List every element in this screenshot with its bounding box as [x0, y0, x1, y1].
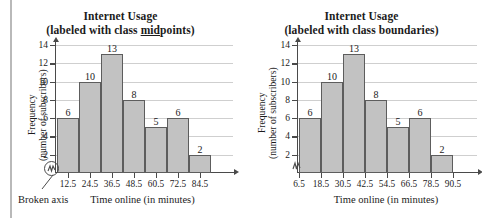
chart-title-block-right: Internet Usage (labeled with class bound…: [241, 10, 482, 37]
histogram-bar: 5: [145, 127, 167, 173]
x-axis-tick-label: 36.5: [104, 179, 120, 189]
y-axis-title-right: Frequency (number of subscribers): [256, 52, 278, 174]
y-axis-tick: [292, 45, 298, 46]
x-axis-tick: [453, 173, 454, 178]
y-axis-tick: [50, 136, 56, 137]
histogram-bar: 6: [167, 118, 189, 173]
y-axis-tick: [50, 118, 56, 119]
y-axis-tick: [292, 82, 298, 83]
x-axis-tick: [431, 173, 432, 178]
y-axis-tick: [292, 118, 298, 119]
histogram-bar: 6: [57, 118, 79, 173]
gridline: [55, 63, 233, 64]
y-axis-tick: [50, 155, 56, 156]
x-axis-tick: [68, 173, 69, 178]
histogram-bar: 10: [79, 82, 101, 173]
y-axis-tick: [292, 100, 298, 101]
y-axis-tick: [292, 136, 298, 137]
bar-value-label: 6: [66, 107, 71, 118]
y-axis-tick-label: 2: [285, 150, 290, 160]
x-axis-tick-label: 66.5: [401, 179, 417, 189]
histogram-bar: 2: [431, 155, 453, 173]
histogram-bar: 13: [101, 54, 123, 173]
bar-value-label: 6: [176, 107, 181, 118]
plot-area-right: 24681012146101385626.518.530.542.554.566…: [297, 45, 465, 173]
x-axis-tick: [156, 173, 157, 178]
bar-value-label: 13: [107, 43, 117, 54]
histogram-bar: 8: [365, 100, 387, 173]
x-axis-tick-label: 12.5: [60, 179, 76, 189]
y-axis-tick-label: 14: [39, 40, 49, 50]
axis-break-leader-line: [40, 174, 54, 190]
x-axis-tick: [409, 173, 410, 178]
y-axis-tick-label: 4: [43, 131, 48, 141]
chart-subtitle-post: boundaries): [379, 24, 439, 36]
y-axis-title-line2: (number of subscribers): [267, 67, 278, 159]
x-axis-tick-label: 54.5: [379, 179, 395, 189]
histogram-bar: 6: [409, 118, 431, 173]
y-axis-tick: [292, 155, 298, 156]
gridline: [297, 63, 477, 64]
y-axis-tick: [50, 63, 56, 64]
histogram-bar: 10: [321, 82, 343, 173]
bar-value-label: 5: [154, 116, 159, 127]
x-axis-tick-label: 60.5: [148, 179, 164, 189]
histogram-bar: 13: [343, 54, 365, 173]
x-axis-tick: [90, 173, 91, 178]
bar-value-label: 10: [327, 71, 337, 82]
y-axis-tick-label: 10: [281, 77, 291, 87]
histogram-class-midpoints: Internet Usage (labeled with class midpo…: [0, 0, 241, 218]
y-axis-tick-label: 2: [43, 150, 48, 160]
bar-value-label: 2: [198, 144, 203, 155]
bar-value-label: 5: [396, 116, 401, 127]
y-axis-tick-label: 6: [43, 113, 48, 123]
y-axis-title-line1: Frequency: [26, 95, 37, 136]
x-axis-tick: [365, 173, 366, 178]
chart-subtitle-pre: (labeled with class: [284, 24, 378, 36]
axis-break-squiggle-icon: [46, 163, 57, 174]
y-axis-tick: [50, 100, 56, 101]
histogram-bar: 2: [189, 155, 211, 173]
x-axis-title-right: Time online (in minutes): [297, 194, 475, 205]
x-axis-tick-label: 6.5: [293, 179, 305, 189]
y-axis-tick-label: 8: [43, 95, 48, 105]
chart-title-block-left: Internet Usage (labeled with class midpo…: [0, 10, 241, 37]
x-axis-tick-label: 48.5: [126, 179, 142, 189]
x-axis-tick-label: 78.5: [423, 179, 439, 189]
x-axis-tick-label: 42.5: [357, 179, 373, 189]
x-axis-tick-label: 18.5: [313, 179, 329, 189]
bar-value-label: 6: [308, 107, 313, 118]
y-axis-tick-label: 10: [39, 77, 49, 87]
chart-title: Internet Usage: [241, 10, 482, 24]
x-axis-tick-label: 84.5: [192, 179, 208, 189]
bar-value-label: 13: [349, 43, 359, 54]
y-axis-tick-label: 14: [281, 40, 291, 50]
chart-title: Internet Usage: [0, 10, 241, 24]
x-axis-tick: [321, 173, 322, 178]
x-axis-tick: [112, 173, 113, 178]
x-axis-tick: [343, 173, 344, 178]
x-axis-title-left: Time online (in minutes): [55, 194, 230, 205]
x-axis-tick-label: 30.5: [335, 179, 351, 189]
x-axis-tick-label: 72.5: [170, 179, 186, 189]
x-axis-tick: [299, 173, 300, 178]
chart-subtitle-pre: (labeled with class: [46, 24, 140, 36]
y-axis-tick: [50, 45, 56, 46]
y-axis-title-line1: Frequency: [256, 93, 267, 134]
x-axis-tick: [387, 173, 388, 178]
y-axis-tick-label: 12: [281, 58, 291, 68]
axis-break-squiggle-icon: [292, 160, 303, 172]
y-axis-tick-label: 4: [285, 131, 290, 141]
x-axis-tick: [200, 173, 201, 178]
bar-value-label: 8: [374, 89, 379, 100]
y-axis-tick-label: 6: [285, 113, 290, 123]
gridline: [297, 45, 477, 46]
y-axis-tick: [292, 63, 298, 64]
bar-value-label: 6: [418, 107, 423, 118]
x-axis-tick: [134, 173, 135, 178]
chart-subtitle-emphasis: mid: [141, 24, 160, 36]
y-axis-tick-label: 12: [39, 58, 49, 68]
x-axis-tick-label: 24.5: [82, 179, 98, 189]
bar-value-label: 8: [132, 89, 137, 100]
histogram-bar: 8: [123, 100, 145, 173]
